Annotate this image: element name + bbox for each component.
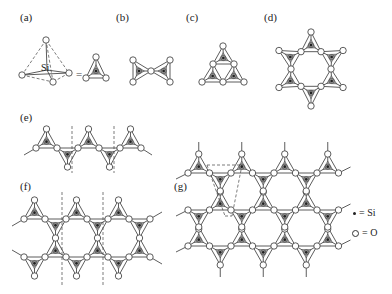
- legend-o: = O: [352, 228, 377, 238]
- oxygen-atom: [52, 235, 58, 241]
- oxygen-atom: [85, 126, 91, 132]
- silicate-structures-figure: [0, 0, 392, 294]
- oxygen-atom: [84, 216, 90, 222]
- oxygen-atom: [196, 151, 202, 157]
- oxygen-atom: [147, 216, 153, 222]
- oxygen-atom: [288, 66, 294, 72]
- oxygen-atom: [73, 197, 79, 203]
- panel-label-g: (g): [174, 181, 187, 192]
- oxygen-atom: [130, 79, 136, 85]
- oxygen-atom: [199, 79, 205, 85]
- oxygen-atom: [260, 262, 266, 268]
- oxygen-atom: [66, 70, 72, 76]
- legend-si-text: = Si: [359, 207, 375, 218]
- oxygen-atom: [31, 197, 37, 203]
- oxygen-atom: [42, 254, 48, 260]
- oxygen-atom: [303, 188, 309, 194]
- oxygen-atom: [148, 68, 154, 74]
- oxygen-atom: [43, 37, 49, 43]
- oxygen-atom: [126, 216, 132, 222]
- oxygen-atom: [167, 57, 173, 63]
- oxygen-atom: [249, 207, 255, 213]
- oxygen-atom: [115, 273, 121, 279]
- oxygen-atom: [206, 170, 212, 176]
- oxygen-atom: [228, 243, 234, 249]
- oxygen-atom: [43, 126, 49, 132]
- oxygen-atom: [138, 145, 144, 151]
- oxygen-atom: [63, 254, 69, 260]
- oxygen-atom: [328, 66, 334, 72]
- oxygen-atom: [335, 170, 341, 176]
- oxygen-atom: [276, 47, 282, 53]
- oxygen-atom: [96, 145, 102, 151]
- oxygen-atom: [220, 43, 226, 49]
- oxygen-atom: [19, 72, 25, 78]
- oxygen-atom: [220, 79, 226, 85]
- panel-label-c: (c): [186, 12, 198, 23]
- oxygen-atom: [50, 79, 56, 85]
- oxygen-atom: [271, 243, 277, 249]
- oxygen-atom: [84, 254, 90, 260]
- si-dot-icon: [353, 212, 356, 215]
- oxygen-atom: [318, 83, 324, 89]
- oxygen-atom: [314, 207, 320, 213]
- oxygen-atom: [298, 83, 304, 89]
- oxygen-atom: [249, 243, 255, 249]
- oxygen-atom: [42, 216, 48, 222]
- oxygen-atom: [340, 47, 346, 53]
- oxygen-atom: [314, 243, 320, 249]
- oxygen-atom: [292, 243, 298, 249]
- si-atom-label: Si: [41, 62, 49, 73]
- panel-label-d: (d): [264, 12, 277, 23]
- oxygen-atom: [260, 188, 266, 194]
- oxygen-atom: [249, 170, 255, 176]
- oxygen-atom: [75, 145, 81, 151]
- oxygen-atom: [271, 207, 277, 213]
- oxygen-atom: [21, 216, 27, 222]
- oxygen-atom: [64, 164, 70, 170]
- oxygen-atom: [298, 48, 304, 54]
- oxygen-atom: [185, 243, 191, 249]
- oxygen-atom: [239, 224, 245, 230]
- oxygen-atom: [115, 197, 121, 203]
- oxygen-atom: [335, 243, 341, 249]
- equals-sign: =: [76, 68, 82, 80]
- oxygen-atom: [126, 254, 132, 260]
- oxygen-atom: [136, 235, 142, 241]
- oxygen-atom: [325, 151, 331, 157]
- oxygen-atom: [31, 273, 37, 279]
- oxygen-atom: [318, 48, 324, 54]
- oxygen-atom: [117, 145, 123, 151]
- oxygen-atom: [292, 207, 298, 213]
- oxygen-atom: [303, 262, 309, 268]
- oxygen-atom: [54, 145, 60, 151]
- oxygen-atom: [103, 75, 109, 81]
- oxygen-atom: [206, 207, 212, 213]
- panel-label-f: (f): [20, 181, 31, 192]
- oxygen-atom: [130, 57, 136, 63]
- oxygen-atom: [94, 235, 100, 241]
- oxygen-atom: [239, 151, 245, 157]
- oxygen-atom: [282, 151, 288, 157]
- oxygen-atom: [167, 79, 173, 85]
- oxygen-atom: [106, 164, 112, 170]
- oxygen-atom: [325, 224, 331, 230]
- oxygen-atom: [340, 84, 346, 90]
- oxygen-atom: [93, 54, 99, 60]
- oxygen-atom: [241, 79, 247, 85]
- oxygen-atom: [73, 273, 79, 279]
- oxygen-atom: [308, 29, 314, 35]
- oxygen-atom: [33, 145, 39, 151]
- panel-label-e: (e): [20, 112, 32, 123]
- legend-si: = Si: [353, 208, 375, 218]
- oxygen-atom: [292, 170, 298, 176]
- oxygen-atom: [217, 262, 223, 268]
- panel-label-b: (b): [116, 12, 129, 23]
- oxygen-atom: [217, 188, 223, 194]
- oxygen-atom: [63, 216, 69, 222]
- oxygen-atom: [83, 75, 89, 81]
- oxygen-atom: [105, 216, 111, 222]
- oxygen-atom: [127, 126, 133, 132]
- oxygen-atom: [206, 243, 212, 249]
- oxygen-atom: [282, 224, 288, 230]
